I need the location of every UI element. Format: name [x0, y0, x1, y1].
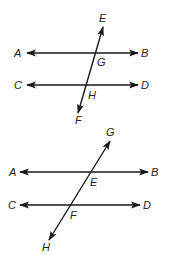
label-e-1: E — [99, 12, 107, 24]
label-b-1: B — [141, 47, 148, 59]
label-e-2: E — [90, 176, 98, 188]
label-c-1: C — [14, 79, 22, 91]
label-c-2: C — [8, 199, 16, 211]
label-f-1: F — [75, 114, 83, 126]
label-b-2: B — [151, 166, 158, 178]
label-d-2: D — [143, 199, 151, 211]
label-h-1: H — [88, 89, 96, 101]
label-g-1: G — [97, 56, 106, 68]
figure-1: A B C D E F G H — [13, 12, 149, 126]
figure-2: A B C D G H E F — [8, 126, 158, 253]
label-d-1: D — [141, 79, 149, 91]
label-a-1: A — [13, 47, 21, 59]
label-a-2: A — [8, 166, 16, 178]
label-f-2: F — [70, 209, 78, 221]
parallel-lines-diagram: A B C D E F G H A B C D G H E F — [0, 0, 169, 261]
label-h-2: H — [42, 241, 50, 253]
transversal-gh — [49, 141, 110, 240]
label-g-2: G — [106, 126, 115, 138]
